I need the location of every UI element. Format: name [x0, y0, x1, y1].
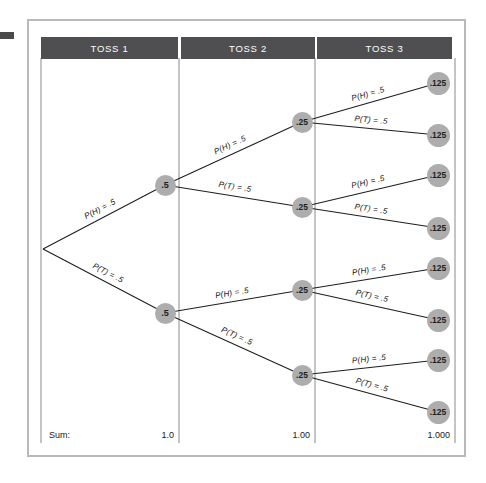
column-header-toss3-label: TOSS 3	[366, 43, 404, 54]
tree-node-toss3-HHT: .125	[427, 124, 450, 147]
sum-value-toss1: 1.0	[104, 430, 174, 440]
tree-lines-layer	[0, 0, 486, 483]
tree-edge-T-to-TT	[165, 313, 302, 375]
tree-edge-lines	[43, 83, 438, 412]
column-header-toss1: TOSS 1	[41, 37, 178, 59]
tree-node-toss3-THT: .125	[427, 309, 450, 332]
tree-node-toss3-TTH: .125	[427, 349, 450, 372]
column-header-toss1-label: TOSS 1	[91, 43, 129, 54]
tree-node-toss3-THH: .125	[427, 257, 450, 280]
tree-node-toss2-TH: .25	[292, 280, 313, 301]
tree-node-toss3-HHH: .125	[427, 72, 450, 95]
tree-edge-root-to-T	[43, 249, 165, 313]
tree-node-toss3-HTH: .125	[427, 164, 450, 187]
tree-node-toss1-T: .5	[155, 303, 176, 324]
tree-node-toss2-HH: .25	[292, 112, 313, 133]
column-header-toss2-label: TOSS 2	[229, 43, 267, 54]
tree-edge-root-to-H	[43, 185, 165, 249]
tree-node-toss2-TT: .25	[292, 365, 313, 386]
column-header-toss3: TOSS 3	[317, 37, 452, 59]
column-header-toss2: TOSS 2	[181, 37, 315, 59]
tree-node-toss2-HT: .25	[292, 197, 313, 218]
sum-value-toss3: 1.000	[378, 430, 450, 440]
sum-row-label: Sum:	[49, 430, 70, 440]
tree-node-toss3-HTT: .125	[427, 217, 450, 240]
tree-node-toss3-TTT: .125	[427, 401, 450, 424]
tree-edge-H-to-HH	[165, 122, 302, 185]
tree-node-toss1-H: .5	[155, 175, 176, 196]
sum-value-toss2: 1.00	[240, 430, 310, 440]
probability-tree-figure: TOSS 1 TOSS 2 TOSS 3 P(H) = .5P(T) = .5P…	[0, 0, 486, 483]
column-divider-lines	[41, 58, 455, 443]
